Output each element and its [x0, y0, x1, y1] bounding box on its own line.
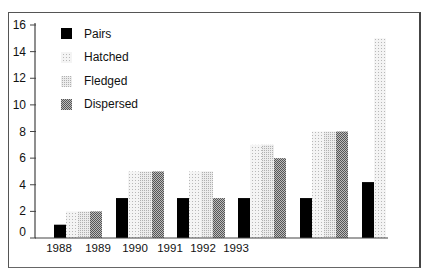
y-tick-label: 6 — [19, 151, 26, 165]
bar-group-1992 — [300, 132, 348, 239]
bar-group-1990 — [177, 171, 225, 238]
legend-swatch-fledged — [61, 76, 72, 87]
bar-pairs-1991 — [238, 198, 250, 238]
y-tick-label: 8 — [19, 125, 26, 139]
legend-label-pairs: Pairs — [84, 27, 111, 41]
legend-swatch-dispersed — [61, 99, 72, 110]
bar-pairs-1993 — [362, 182, 374, 238]
x-tick-label: 1988 — [46, 242, 72, 254]
y-tick-label: 12 — [13, 71, 27, 85]
bar-hatched-1988 — [66, 211, 78, 238]
x-tick-label: 1990 — [122, 242, 148, 254]
bar-pairs-1988 — [54, 225, 66, 238]
legend-item-dispersed: Dispersed — [61, 97, 138, 111]
bar-dispersed-1989 — [152, 171, 164, 238]
bar-fledged-1990 — [201, 171, 213, 238]
legend-swatch-hatched — [61, 52, 72, 63]
bar-dispersed-1990 — [213, 198, 225, 238]
legend-item-hatched: Hatched — [61, 50, 129, 64]
bar-group-1988 — [54, 211, 102, 238]
y-tick-label: 14 — [13, 45, 27, 59]
legend-swatch-pairs — [61, 28, 72, 39]
bar-dispersed-1988 — [90, 211, 102, 238]
legend: Pairs Hatched Fledged Dispersed — [61, 27, 138, 111]
bar-hatched-1991 — [250, 145, 262, 238]
bar-hatched-1990 — [189, 171, 201, 238]
bar-fledged-1989 — [140, 171, 152, 238]
bar-pairs-1989 — [116, 198, 128, 238]
bar-pairs-1992 — [300, 198, 312, 238]
bar-fledged-1988 — [78, 211, 90, 238]
bar-hatched-1989 — [128, 171, 140, 238]
bar-group-1991 — [238, 145, 286, 238]
x-tick-label: 1993 — [223, 242, 249, 254]
y-tick-label: 4 — [19, 178, 26, 192]
bar-fledged-1992 — [324, 132, 336, 239]
y-tick-label: 0 — [19, 225, 26, 239]
bar-fledged-1991 — [262, 145, 274, 238]
legend-item-pairs: Pairs — [61, 27, 111, 41]
bar-group-1989 — [116, 171, 164, 238]
legend-item-fledged: Fledged — [61, 74, 127, 88]
bar-hatched-1993 — [374, 38, 386, 238]
y-tick-label: 16 — [13, 18, 27, 32]
bar-hatched-1992 — [312, 132, 324, 239]
x-tick-label: 1991 — [157, 242, 183, 254]
bar-group-1993 — [362, 38, 386, 238]
x-tick-label: 1989 — [85, 242, 111, 254]
x-axis-labels: 198819891990199119921993 — [46, 242, 249, 254]
x-tick-label: 1992 — [190, 242, 216, 254]
y-tick-label: 10 — [13, 98, 27, 112]
legend-label-hatched: Hatched — [84, 50, 129, 64]
bar-pairs-1990 — [177, 198, 189, 238]
y-tick-label: 2 — [19, 204, 26, 218]
bar-dispersed-1991 — [274, 158, 286, 238]
y-axis: 0246810121416 — [13, 18, 36, 239]
bars-layer — [54, 38, 386, 238]
bar-dispersed-1992 — [336, 132, 348, 239]
legend-label-fledged: Fledged — [84, 74, 127, 88]
bar-chart: 0246810121416 198819891990199119921993 P… — [0, 0, 428, 276]
legend-label-dispersed: Dispersed — [84, 97, 138, 111]
